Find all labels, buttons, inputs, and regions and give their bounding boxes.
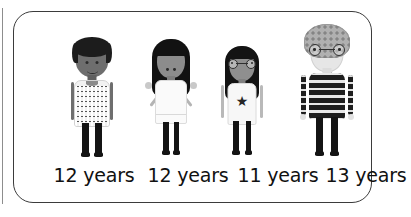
shirt-pattern-overlay-1 — [75, 86, 109, 126]
jumper-4 — [309, 73, 345, 119]
person-figure-1 — [61, 34, 123, 156]
hand-left-2 — [145, 82, 152, 89]
eye-right-4 — [338, 48, 341, 51]
adjacent-card-edge — [2, 8, 3, 204]
collar-1 — [86, 81, 98, 86]
arm-right-3 — [260, 85, 263, 118]
dress-2 — [155, 80, 187, 124]
leg-left-3 — [233, 121, 239, 152]
age-label-1: 12 years — [46, 164, 142, 186]
shoe-right-3 — [245, 150, 253, 155]
person-figure-3: ★ — [213, 38, 271, 156]
leg-left-1 — [82, 123, 89, 155]
shoe-right-2 — [173, 150, 181, 155]
shirt-3: ★ — [228, 83, 257, 125]
star-icon: ★ — [236, 94, 249, 108]
shoe-left-3 — [232, 150, 240, 155]
dress-hem-2 — [156, 114, 186, 115]
shoe-left-2 — [162, 150, 170, 155]
eye-left-4 — [313, 48, 316, 51]
age-label-4: 13 years — [318, 164, 411, 186]
age-label-row: 12 years 12 years 11 years 13 years — [28, 162, 357, 188]
glasses-bridge-4 — [319, 49, 335, 50]
jumper-stripes-4 — [309, 73, 345, 119]
mouth-1 — [87, 68, 98, 74]
hair-side-left-1 — [72, 43, 78, 63]
leg-right-1 — [95, 123, 102, 155]
shoe-right-4 — [330, 151, 339, 156]
age-label-2: 12 years — [140, 164, 236, 186]
shirt-1 — [74, 80, 110, 127]
hair-bangs-2 — [155, 41, 187, 56]
leg-right-4 — [331, 117, 338, 154]
eye-right-2 — [173, 68, 176, 71]
leg-left-4 — [316, 117, 323, 154]
sleeve-stripes-left-4 — [301, 75, 306, 115]
shoe-left-1 — [81, 152, 90, 157]
arm-right-1 — [110, 82, 113, 120]
hair-top-1 — [74, 37, 111, 57]
arm-right-4 — [348, 75, 353, 115]
hair-bangs-3 — [228, 48, 257, 59]
age-label-3: 11 years — [232, 164, 324, 186]
person-figure-2 — [140, 34, 202, 156]
hair-side-right-1 — [106, 43, 112, 63]
hand-right-4 — [348, 114, 354, 120]
shoe-left-4 — [315, 151, 324, 156]
sleeve-stripes-right-4 — [348, 75, 353, 115]
illustration-card: ★ — [13, 11, 372, 203]
glasses-bridge-3 — [236, 63, 248, 64]
eye-left-1 — [86, 61, 89, 64]
eye-right-1 — [96, 61, 99, 64]
person-figure-4 — [293, 24, 361, 156]
arm-left-4 — [301, 75, 306, 115]
shoe-right-1 — [94, 152, 103, 157]
eye-left-2 — [166, 68, 169, 71]
hand-right-2 — [190, 82, 197, 89]
leg-left-2 — [163, 122, 169, 153]
leg-right-2 — [174, 122, 180, 153]
arm-left-3 — [221, 85, 224, 118]
leg-right-3 — [246, 121, 252, 152]
hand-left-4 — [300, 114, 306, 120]
